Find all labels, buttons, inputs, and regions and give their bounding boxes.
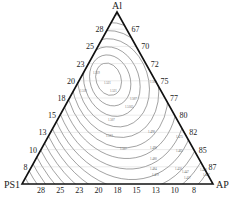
bottom-tick-label: 23	[75, 186, 83, 195]
left-tick-label: 15	[48, 111, 56, 120]
left-axis-ticks: 28252320181513108	[24, 25, 104, 172]
bottom-tick-label: 28	[37, 186, 45, 195]
contour-value-label: 1.475	[176, 135, 183, 139]
right-tick-label: 72	[151, 60, 159, 69]
right-tick-label: 75	[160, 77, 168, 86]
bottom-tick-label: 10	[171, 186, 179, 195]
right-axis-ticks: 677072757780828587	[132, 25, 217, 172]
contour-value-label: 1.513	[106, 134, 113, 138]
left-tick-label: 18	[58, 94, 66, 103]
left-tick-label: 28	[96, 25, 104, 34]
right-tick-label: 80	[180, 111, 188, 120]
right-tick-label: 87	[208, 163, 216, 172]
right-tick-label: 77	[170, 94, 178, 103]
contour-value-label: 1.507	[120, 147, 127, 151]
vertex-label-left: PS1	[4, 179, 20, 190]
contour-lines	[0, 0, 235, 203]
contour-value-label: 1.417	[184, 176, 191, 180]
vertex-label-right: AP	[216, 179, 229, 190]
right-tick-label: 67	[132, 25, 140, 34]
contour-value-label: 1.5165	[125, 105, 134, 109]
contour-value-label: 1.479	[152, 173, 159, 177]
left-tick-label: 25	[86, 42, 94, 51]
bottom-tick-label: 25	[56, 186, 64, 195]
contour-value-label: 1.521	[104, 81, 111, 85]
right-tick-label: 85	[199, 146, 207, 155]
left-tick-label: 20	[67, 77, 75, 86]
contour-value-label: 1.498	[148, 130, 155, 134]
left-tick-label: 23	[77, 60, 85, 69]
contour-value-label: 1.507	[108, 118, 115, 122]
right-tick-label: 70	[141, 42, 149, 51]
contour-value-label: 1.480	[150, 157, 157, 161]
bottom-tick-label: 18	[114, 186, 122, 195]
contour-value-labels: 1.5191.5211.5211.5191.5051.5071.51651.50…	[80, 71, 210, 180]
contour-value-label: 1.490	[150, 146, 157, 150]
left-tick-label: 13	[39, 128, 47, 137]
ternary-diagram: 1.5191.5211.5211.5191.5051.5071.51651.50…	[0, 0, 235, 203]
left-tick-label: 10	[29, 146, 37, 155]
contour-value-label: 1.507	[130, 97, 137, 101]
left-tick-label: 8	[24, 163, 28, 172]
contour-value-label: 1.521	[110, 89, 117, 93]
bottom-tick-label: 8	[192, 186, 196, 195]
contour-value-label: 1.465	[176, 149, 183, 153]
bottom-tick-label: 13	[152, 186, 160, 195]
bottom-tick-label: 15	[133, 186, 141, 195]
contour-value-label: 1.484	[150, 167, 157, 171]
bottom-tick-label: 20	[94, 186, 102, 195]
contour-value-label: 1.519	[80, 89, 87, 93]
contour-value-label: 1.447	[182, 170, 189, 174]
right-tick-label: 82	[189, 128, 197, 137]
contour-value-label: 1.519	[93, 71, 100, 75]
bottom-axis-ticks: 28252320181513108	[37, 186, 196, 195]
vertex-label-top: Al	[112, 0, 122, 11]
